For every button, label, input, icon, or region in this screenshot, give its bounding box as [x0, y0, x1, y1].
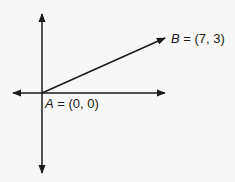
point-a-name: A — [44, 96, 54, 111]
vector-ab — [42, 38, 165, 93]
point-b-name: B — [171, 31, 180, 46]
point-a-coords: = (0, 0) — [54, 96, 99, 111]
point-b-label: B = (7, 3) — [171, 31, 225, 46]
point-b-coords: = (7, 3) — [180, 31, 225, 46]
point-a-label: A = (0, 0) — [44, 96, 99, 111]
coordinate-diagram: B = (7, 3) A = (0, 0) — [0, 0, 235, 182]
